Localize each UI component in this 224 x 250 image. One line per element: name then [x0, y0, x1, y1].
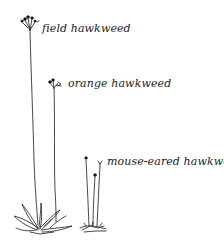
mouse-eared-hawkweed-plant — [80, 157, 106, 232]
basal-leaves — [14, 203, 72, 234]
label-mouse-eared-hawkweed: mouse-eared hawkweed — [107, 155, 224, 168]
label-orange-hawkweed: orange hawkweed — [68, 77, 171, 90]
label-field-hawkweed: field hawkweed — [42, 22, 131, 35]
field-hawkweed-plant — [21, 16, 39, 225]
hawkweed-illustration — [0, 0, 224, 250]
orange-hawkweed-plant — [49, 79, 61, 222]
